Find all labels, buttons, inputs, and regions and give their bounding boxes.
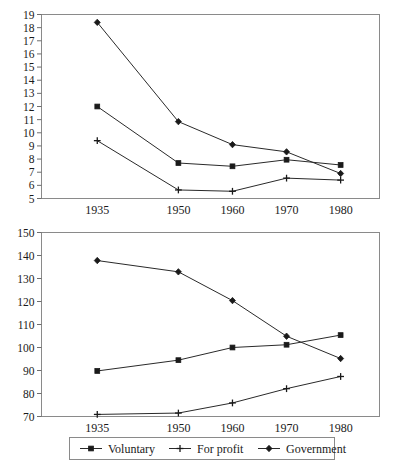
- y-tick-label-16: 16: [23, 48, 35, 60]
- legend-label-for-profit: For profit: [197, 442, 244, 456]
- y-tick-label-70: 70: [23, 411, 35, 423]
- y-tick-label-80: 80: [23, 388, 35, 400]
- marker-square-voluntary-1960: [230, 345, 235, 350]
- y-tick-label-100: 100: [17, 342, 35, 354]
- x-tick-label-1950: 1950: [166, 203, 190, 217]
- x-tick-label-1960: 1960: [220, 421, 244, 435]
- marker-square-voluntary-1935: [95, 104, 100, 109]
- chart-background: [0, 0, 397, 468]
- x-tick-label-1970: 1970: [275, 203, 299, 217]
- x-tick-label-1935: 1935: [85, 421, 109, 435]
- x-tick-label-1970: 1970: [275, 421, 299, 435]
- marker-square-legend-voluntary: [89, 446, 94, 451]
- y-tick-label-90: 90: [23, 365, 35, 377]
- x-tick-label-1935: 1935: [85, 203, 109, 217]
- marker-square-voluntary-1950: [176, 358, 181, 363]
- x-tick-label-1960: 1960: [220, 203, 244, 217]
- y-tick-label-8: 8: [29, 153, 35, 165]
- y-tick-label-6: 6: [29, 179, 35, 191]
- y-tick-label-12: 12: [23, 101, 35, 113]
- y-tick-label-18: 18: [23, 22, 35, 34]
- x-tick-label-1980: 1980: [329, 421, 353, 435]
- y-tick-label-11: 11: [23, 114, 34, 126]
- marker-square-voluntary-1960: [230, 164, 235, 169]
- marker-square-voluntary-1970: [284, 157, 289, 162]
- y-tick-label-17: 17: [23, 35, 35, 47]
- marker-square-voluntary-1980: [338, 333, 343, 338]
- y-tick-label-14: 14: [23, 74, 35, 86]
- y-tick-label-10: 10: [23, 127, 35, 139]
- y-tick-label-150: 150: [17, 227, 35, 239]
- marker-square-voluntary-1950: [176, 161, 181, 166]
- y-tick-label-110: 110: [18, 319, 35, 331]
- y-tick-label-120: 120: [17, 296, 35, 308]
- y-tick-label-15: 15: [23, 61, 35, 73]
- y-tick-label-13: 13: [23, 87, 35, 99]
- y-tick-label-7: 7: [29, 166, 35, 178]
- chart-legend: VoluntaryFor profitGovernment: [70, 438, 347, 460]
- x-tick-label-1950: 1950: [166, 421, 190, 435]
- marker-square-voluntary-1935: [95, 369, 100, 374]
- y-tick-label-9: 9: [29, 140, 35, 152]
- y-tick-label-19: 19: [23, 9, 35, 21]
- y-tick-label-5: 5: [29, 193, 35, 205]
- marker-square-voluntary-1970: [284, 342, 289, 347]
- chart-canvas: 5678910111213141516171819 19351950196019…: [0, 0, 397, 468]
- marker-square-voluntary-1980: [338, 163, 343, 168]
- x-tick-label-1980: 1980: [329, 203, 353, 217]
- two-panel-line-chart-figure: 5678910111213141516171819 19351950196019…: [0, 0, 397, 468]
- legend-label-government: Government: [286, 442, 347, 456]
- legend-label-voluntary: Voluntary: [108, 442, 155, 456]
- y-tick-label-130: 130: [17, 273, 35, 285]
- y-tick-label-140: 140: [17, 250, 35, 262]
- legend-entries: VoluntaryFor profitGovernment: [80, 442, 347, 456]
